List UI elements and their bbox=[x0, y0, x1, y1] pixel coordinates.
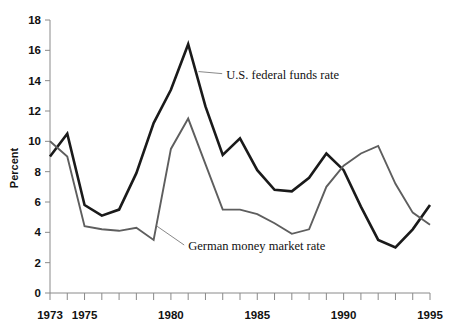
y-tick-label: 2 bbox=[35, 257, 41, 269]
x-tick-label: 1975 bbox=[72, 309, 98, 321]
x-tick-label: 1985 bbox=[244, 309, 270, 321]
line-chart: 024681012141618 197319751980198519901995… bbox=[0, 0, 455, 333]
y-tick-label: 4 bbox=[35, 226, 42, 238]
y-tick-label: 6 bbox=[35, 196, 41, 208]
x-tick-label: 1995 bbox=[417, 309, 443, 321]
y-tick-label: 8 bbox=[35, 166, 42, 178]
x-tick-label: 1980 bbox=[158, 309, 184, 321]
x-tick-label: 1973 bbox=[37, 309, 63, 321]
y-tick-label: 10 bbox=[28, 135, 41, 147]
y-tick-label: 0 bbox=[35, 287, 41, 299]
chart-container: 024681012141618 197319751980198519901995… bbox=[0, 0, 455, 333]
x-tick-label: 1990 bbox=[331, 309, 357, 321]
y-tick-label: 16 bbox=[28, 44, 41, 56]
annotation-label: German money market rate bbox=[188, 239, 326, 253]
annotation-label: U.S. federal funds rate bbox=[226, 68, 339, 82]
y-tick-label: 14 bbox=[28, 75, 41, 87]
y-axis-title-label: Percent bbox=[8, 147, 20, 188]
y-tick-label: 12 bbox=[28, 105, 41, 117]
y-tick-label: 18 bbox=[28, 14, 41, 26]
y-axis-title: Percent bbox=[8, 147, 20, 188]
